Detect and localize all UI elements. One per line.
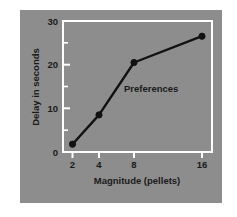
x-tick-label-4: 4 bbox=[96, 159, 102, 170]
x-tick-label-2: 2 bbox=[70, 159, 75, 170]
y-tick-label-0: 0 bbox=[53, 147, 58, 158]
x-tick-labels: 2 4 8 16 bbox=[70, 159, 207, 170]
data-point-2 bbox=[69, 141, 75, 147]
y-tick-label-10: 10 bbox=[47, 103, 58, 114]
series-annotation-preferences: Preferences bbox=[124, 83, 178, 94]
data-point-4 bbox=[96, 112, 102, 118]
x-tick-label-16: 16 bbox=[197, 159, 208, 170]
data-point-16 bbox=[199, 33, 205, 39]
x-axis-title: Magnitude (pellets) bbox=[94, 175, 181, 186]
x-tick-label-8: 8 bbox=[131, 159, 136, 170]
y-axis-title: Delay in seconds bbox=[30, 48, 41, 126]
y-tick-label-30: 30 bbox=[47, 16, 58, 27]
y-tick-labels: 30 20 10 0 bbox=[47, 16, 58, 158]
line-chart: 30 20 10 0 2 4 8 16 Magnitude (pellets) … bbox=[0, 0, 237, 217]
data-point-8 bbox=[131, 59, 137, 65]
figure-container: 30 20 10 0 2 4 8 16 Magnitude (pellets) … bbox=[0, 0, 237, 217]
y-tick-label-20: 20 bbox=[47, 59, 58, 70]
y-axis-ticks bbox=[63, 21, 70, 152]
